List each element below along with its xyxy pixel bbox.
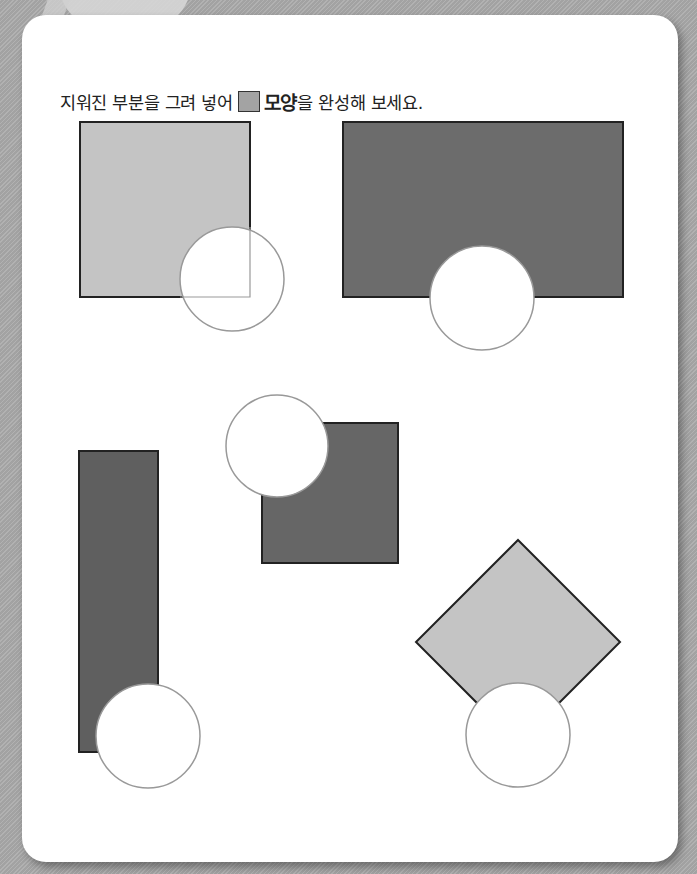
erased-area[interactable] xyxy=(466,683,570,787)
dark-square[interactable] xyxy=(226,395,398,563)
dark-wide-rectangle[interactable] xyxy=(343,122,623,350)
erased-area[interactable] xyxy=(226,395,328,497)
shapes-canvas xyxy=(0,0,697,874)
light-square[interactable] xyxy=(80,122,284,331)
erased-area[interactable] xyxy=(430,246,534,350)
erased-area[interactable] xyxy=(180,227,284,331)
erased-area[interactable] xyxy=(96,684,200,788)
light-diamond[interactable] xyxy=(416,540,620,787)
dark-tall-rectangle[interactable] xyxy=(79,451,200,788)
